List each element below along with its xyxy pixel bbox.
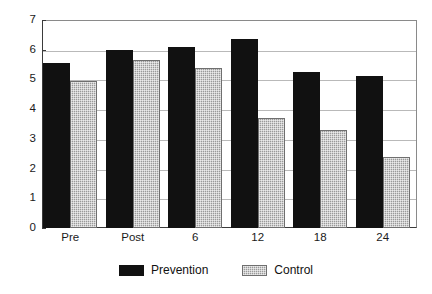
legend-item-prevention[interactable]: Prevention: [119, 264, 208, 276]
x-tick-label-Pre: Pre: [61, 232, 79, 244]
x-tick-label-12: 12: [251, 232, 264, 244]
y-tick-mark-0: [42, 228, 46, 229]
bar-control-Post: [133, 60, 160, 228]
bar-prevention-Pre: [43, 63, 70, 228]
bar-control-Pre: [70, 81, 97, 228]
y-tick-label-0: 0: [8, 222, 36, 234]
bar-prevention-24: [356, 76, 383, 228]
bar-chart: 01234567 PrePost6121824 PreventionContro…: [0, 0, 432, 294]
bar-control-6: [195, 68, 222, 228]
y-tick-label-3: 3: [8, 133, 36, 145]
x-tick-label-6: 6: [192, 232, 198, 244]
x-axis: PrePost6121824: [42, 230, 417, 248]
x-tick-label-Post: Post: [121, 232, 144, 244]
y-axis: 01234567: [0, 20, 36, 228]
y-tick-label-7: 7: [8, 14, 36, 26]
y-tick-label-1: 1: [8, 193, 36, 205]
bar-control-24: [383, 157, 410, 228]
legend-label-control: Control: [274, 264, 313, 276]
bar-prevention-Post: [106, 50, 133, 228]
chart-legend: PreventionControl: [0, 264, 432, 276]
bar-control-12: [258, 118, 285, 228]
legend-item-control[interactable]: Control: [242, 264, 313, 276]
legend-swatch-control: [242, 265, 267, 276]
bars-layer: [42, 20, 417, 228]
x-tick-label-24: 24: [376, 232, 389, 244]
y-tick-label-5: 5: [8, 74, 36, 86]
bar-control-18: [320, 130, 347, 228]
y-tick-label-6: 6: [8, 44, 36, 56]
legend-swatch-prevention: [119, 265, 144, 276]
bar-prevention-6: [168, 47, 195, 228]
legend-label-prevention: Prevention: [151, 264, 208, 276]
y-tick-label-4: 4: [8, 103, 36, 115]
bar-prevention-18: [293, 72, 320, 228]
x-tick-label-18: 18: [314, 232, 327, 244]
y-tick-label-2: 2: [8, 163, 36, 175]
bar-prevention-12: [231, 39, 258, 228]
